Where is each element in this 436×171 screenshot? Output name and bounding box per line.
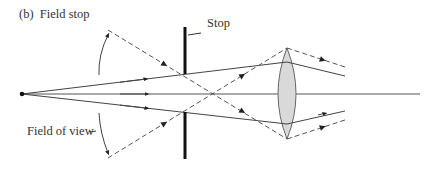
stop-leader [188, 33, 201, 35]
field-stop-diagram [0, 0, 436, 171]
fov-arrow-down [99, 113, 108, 153]
fov-arrow-up [99, 35, 108, 75]
point-source [20, 92, 25, 97]
fov-leader [90, 131, 96, 132]
lens [278, 48, 296, 139]
